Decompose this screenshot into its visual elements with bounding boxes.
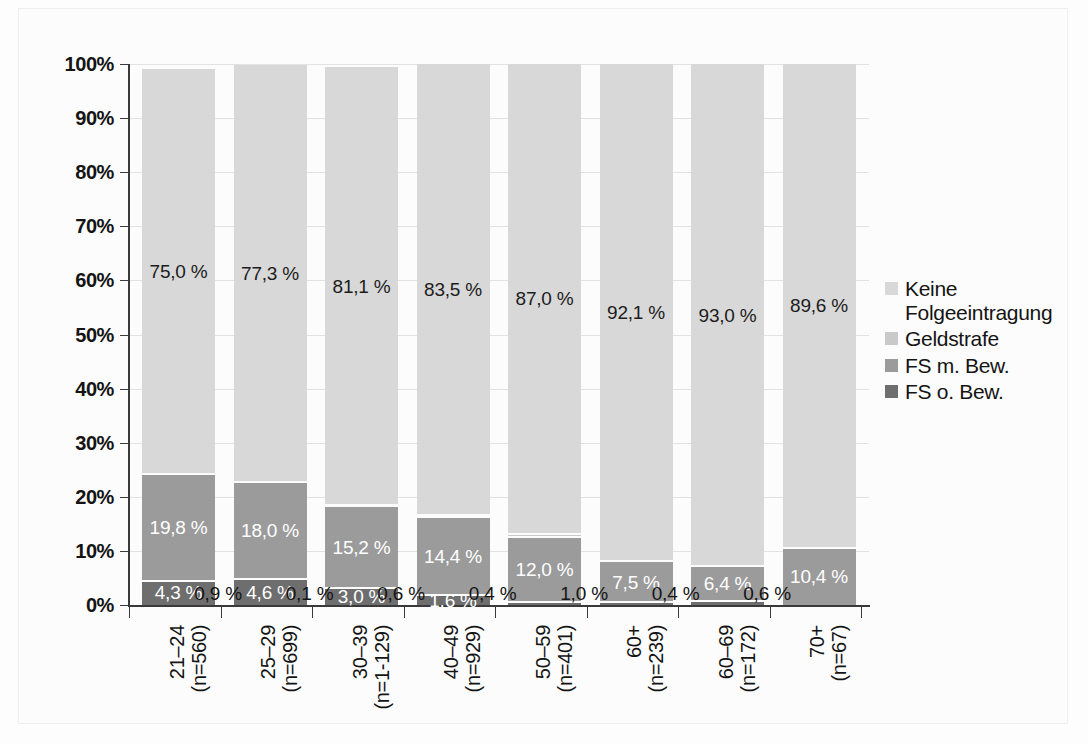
legend-item[interactable]: FS m. Bew. <box>885 354 1075 378</box>
category-label-age: 25–29 <box>257 625 279 679</box>
plot-area: 4,3 %19,8 %75,0 %4,6 %18,0 %77,3 %3,0 %1… <box>129 64 869 605</box>
bar-stack[interactable]: 6,4 %93,0 % <box>691 64 764 605</box>
bar-stack[interactable]: 4,3 %19,8 %75,0 % <box>142 64 215 605</box>
bar-segment[interactable]: 92,1 % <box>600 64 673 562</box>
category-label-age: 70+ <box>806 625 828 658</box>
bar-segment[interactable]: 93,0 % <box>691 64 764 567</box>
legend-color-swatch <box>885 359 898 372</box>
legend-item-label: FS m. Bew. <box>905 354 1009 378</box>
chart-legend: KeineFolgeeintragungGeldstrafeFS m. Bew.… <box>885 277 1075 407</box>
bar-segment[interactable]: 18,0 % <box>234 483 307 580</box>
bar-stack[interactable]: 3,0 %15,2 %81,1 % <box>325 64 398 605</box>
segment-value-label: 12,0 % <box>516 559 574 581</box>
outside-value-label: 0,1 % <box>286 583 334 721</box>
bar-segment[interactable]: 15,2 % <box>325 507 398 589</box>
segment-divider <box>691 565 764 567</box>
outside-value-label: 0,4 % <box>652 583 700 721</box>
segment-divider <box>142 473 215 475</box>
segment-divider <box>417 514 490 516</box>
segment-divider <box>508 536 581 538</box>
category-label-age: 60–69 <box>715 625 737 679</box>
bar-stack[interactable]: 7,5 %92,1 % <box>600 64 673 605</box>
bar-segment[interactable]: 10,4 % <box>783 549 856 605</box>
segment-value-label: 10,4 % <box>790 566 848 588</box>
category-label-age: 60+ <box>623 625 645 658</box>
page-background: 0%10%20%30%40%50%60%70%80%90%100% 4,3 %1… <box>0 0 1088 744</box>
category-label-age: 30–39 <box>349 625 371 679</box>
bar-stack[interactable]: 4,6 %18,0 %77,3 % <box>234 64 307 605</box>
bar-stack[interactable]: 10,4 %89,6 % <box>783 64 856 605</box>
legend-color-swatch <box>885 385 898 398</box>
bar-segment[interactable]: 89,6 % <box>783 64 856 549</box>
bar-stack[interactable]: 12,0 %87,0 % <box>508 64 581 605</box>
legend-item-label: Geldstrafe <box>905 327 999 351</box>
category-label-age: 40–49 <box>440 625 462 679</box>
segment-value-label: 89,6 % <box>790 295 848 317</box>
x-axis-tick <box>129 607 130 618</box>
chart-figure-frame: 0%10%20%30%40%50%60%70%80%90%100% 4,3 %1… <box>18 8 1068 724</box>
legend-color-swatch <box>885 332 898 345</box>
segment-divider <box>234 481 307 483</box>
y-axis-tick-label: 40% <box>54 379 114 399</box>
legend-item-label: KeineFolgeeintragung <box>905 277 1052 324</box>
segment-divider <box>142 580 215 582</box>
segment-divider <box>417 516 490 518</box>
y-axis-tick-label: 60% <box>54 270 114 290</box>
segment-value-label: 77,3 % <box>241 263 299 285</box>
outside-value-label: 0,4 % <box>469 583 517 721</box>
bar-segment[interactable]: 83,5 % <box>417 64 490 516</box>
category-label-n: (n=67) <box>828 625 850 744</box>
legend-color-swatch <box>885 282 898 295</box>
legend-item-label: FS o. Bew. <box>905 380 1004 404</box>
segment-value-label: 87,0 % <box>516 288 574 310</box>
outside-value-label: 0,6 % <box>743 583 791 721</box>
segment-value-label: 83,5 % <box>424 279 482 301</box>
y-axis-tick-label: 10% <box>54 541 114 561</box>
legend-item[interactable]: KeineFolgeeintragung <box>885 277 1075 324</box>
segment-value-label: 15,2 % <box>333 537 391 559</box>
outside-value-label: 0,6 % <box>377 583 425 721</box>
segment-divider <box>325 504 398 506</box>
category-label-age: 21–24 <box>166 625 188 679</box>
segment-value-label: 75,0 % <box>150 261 208 283</box>
y-axis-tick-label: 30% <box>54 433 114 453</box>
segment-value-label: 19,8 % <box>150 517 208 539</box>
segment-divider <box>600 560 673 562</box>
category-label-age: 50–59 <box>532 625 554 679</box>
outside-value-label: 1,0 % <box>560 583 608 721</box>
y-axis-tick-label: 50% <box>54 325 114 345</box>
legend-item[interactable]: Geldstrafe <box>885 327 1075 351</box>
y-axis-tick-label: 70% <box>54 216 114 236</box>
segment-divider <box>783 547 856 549</box>
y-axis-tick-label: 90% <box>54 108 114 128</box>
bar-segment[interactable]: 19,8 % <box>142 475 215 582</box>
y-axis-tick-label: 80% <box>54 162 114 182</box>
segment-value-label: 81,1 % <box>333 276 391 298</box>
category-label: 70+(n=67) <box>806 625 850 744</box>
y-axis-tick-label: 100% <box>54 54 114 74</box>
segment-value-label: 93,0 % <box>699 305 757 327</box>
x-axis-tick <box>861 607 862 618</box>
segment-value-label: 18,0 % <box>241 520 299 542</box>
outside-value-label: 0,9 % <box>194 583 242 721</box>
y-axis-tick-label: 20% <box>54 487 114 507</box>
segment-value-label: 14,4 % <box>424 546 482 568</box>
y-axis-tick-label: 0% <box>54 595 114 615</box>
segment-divider <box>508 533 581 535</box>
segment-divider <box>234 578 307 580</box>
bar-segment[interactable]: 81,1 % <box>325 67 398 506</box>
bar-segment[interactable]: 75,0 % <box>142 69 215 475</box>
bar-segment[interactable]: 77,3 % <box>234 65 307 483</box>
bar-stack[interactable]: 1,6 %14,4 %83,5 % <box>417 64 490 605</box>
bar-segment[interactable]: 87,0 % <box>508 64 581 535</box>
legend-item[interactable]: FS o. Bew. <box>885 380 1075 404</box>
segment-value-label: 92,1 % <box>607 302 665 324</box>
